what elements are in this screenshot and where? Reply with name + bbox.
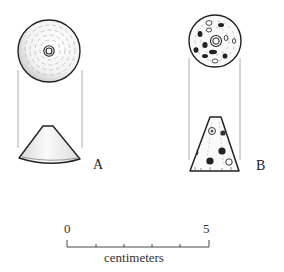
object-b-label: B bbox=[256, 159, 265, 173]
object-a-top-view bbox=[18, 20, 80, 82]
object-b-top-view bbox=[189, 15, 241, 67]
object-b-side-view bbox=[190, 117, 239, 171]
object-a-label: A bbox=[93, 158, 103, 172]
object-a-side-view bbox=[19, 126, 80, 163]
scale-unit-label: centimeters bbox=[104, 251, 164, 264]
scale-bar bbox=[67, 240, 209, 247]
artifact-drawing bbox=[0, 0, 284, 272]
scale-start-label: 0 bbox=[64, 222, 71, 235]
scale-end-label: 5 bbox=[203, 222, 210, 235]
